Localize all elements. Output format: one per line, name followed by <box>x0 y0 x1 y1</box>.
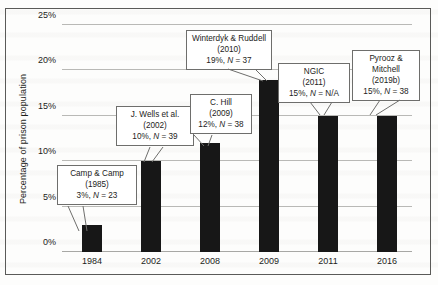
ytick-label-25: 25% <box>38 10 56 20</box>
xtick-label-2002: 2002 <box>128 256 174 266</box>
xtick-label-1984: 1984 <box>69 256 115 266</box>
ytick-label-0: 0% <box>43 237 56 247</box>
annotation-year: (1985) <box>62 179 132 190</box>
annotation-stat: 3%, N = 23 <box>62 190 132 201</box>
bar-2009[interactable] <box>259 80 279 253</box>
annotation-stat-percent: 12% <box>198 120 214 129</box>
annotation-year: (2019b) <box>357 75 415 86</box>
xtick-label-2011: 2011 <box>305 256 351 266</box>
annotation-ngic[interactable]: NGIC (2011) 15%, N = N/A <box>278 63 350 103</box>
annotation-stat-n-value: = 38 <box>390 87 408 96</box>
annotation-stat-n-value: = 37 <box>233 56 251 65</box>
y-axis-title-text: Percentage of prison population <box>18 73 28 203</box>
annotation-stat: 19%, N = 37 <box>191 55 267 66</box>
gridline-5 <box>62 206 412 207</box>
annotation-source: C. Hill <box>195 97 247 108</box>
annotation-stat: 10%, N = 39 <box>121 131 189 142</box>
annotation-stat: 12%, N = 38 <box>195 119 247 130</box>
annotation-source: Winterdyk & Ruddell <box>191 33 267 44</box>
figure-container: Percentage of prison population 0% 5% 10… <box>0 0 438 285</box>
annotation-stat: 15%, N = 38 <box>357 86 415 97</box>
annotation-pyrooz-and-mitchell[interactable]: Pyrooz & Mitchell (2019b) 15%, N = 38 <box>352 50 420 101</box>
bar-1984[interactable] <box>82 225 102 252</box>
annotation-stat-percent: 3% <box>77 191 89 200</box>
ytick-label-10: 10% <box>38 146 56 156</box>
gridline-0 <box>62 251 412 252</box>
annotation-stat: 15%, N = N/A <box>283 88 345 99</box>
bar-2008[interactable] <box>200 143 220 252</box>
annotation-stat-percent: 19% <box>206 56 222 65</box>
ytick-label-5: 5% <box>43 192 56 202</box>
annotation-year: (2011) <box>283 77 345 88</box>
annotation-winterdyk-and-ruddell[interactable]: Winterdyk & Ruddell (2010) 19%, N = 37 <box>186 30 272 70</box>
annotation-camp-and-camp[interactable]: Camp & Camp (1985) 3%, N = 23 <box>57 165 137 205</box>
annotation-year: (2010) <box>191 44 267 55</box>
ytick-label-20: 20% <box>38 55 56 65</box>
annotation-stat-n-value: = 38 <box>225 120 243 129</box>
y-axis-title: Percentage of prison population <box>16 25 30 252</box>
annotation-c-hill[interactable]: C. Hill (2009) 12%, N = 38 <box>190 94 252 134</box>
ytick-label-15: 15% <box>38 101 56 111</box>
gridline-25 <box>62 24 412 25</box>
xtick-label-2008: 2008 <box>187 256 233 266</box>
xtick-label-2009: 2009 <box>246 256 292 266</box>
annotation-year: (2002) <box>121 120 189 131</box>
annotation-source: J. Wells et al. <box>121 109 189 120</box>
bar-2016[interactable] <box>377 116 397 252</box>
annotation-stat-percent: 15% <box>363 87 379 96</box>
annotation-j-wells-et-al[interactable]: J. Wells et al. (2002) 10%, N = 39 <box>116 106 194 146</box>
annotation-source-line2: Mitchell <box>357 64 415 75</box>
bar-2011[interactable] <box>318 116 338 252</box>
xtick-label-2016: 2016 <box>364 256 410 266</box>
annotation-stat-n-value: = 23 <box>99 191 117 200</box>
annotation-stat-n-value: = N/A <box>316 89 339 98</box>
annotation-stat-percent: 15% <box>289 89 305 98</box>
annotation-source: Camp & Camp <box>62 168 132 179</box>
gridline-10 <box>62 160 412 161</box>
annotation-source: NGIC <box>283 66 345 77</box>
annotation-source: Pyrooz & <box>357 53 415 64</box>
annotation-stat-percent: 10% <box>132 132 148 141</box>
bar-2002[interactable] <box>141 161 161 252</box>
annotation-stat-n-value: = 39 <box>159 132 177 141</box>
annotation-year: (2009) <box>195 108 247 119</box>
